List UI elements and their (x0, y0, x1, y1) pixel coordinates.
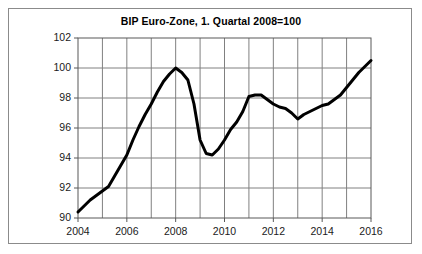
y-axis-tick-label: 90 (35, 211, 71, 223)
x-axis-tick-label: 2006 (104, 225, 150, 237)
y-axis-tick-label: 94 (35, 151, 71, 163)
axis-tick-marks (74, 38, 371, 222)
y-axis-tick-label: 98 (35, 91, 71, 103)
x-axis-tick-label: 2012 (250, 225, 296, 237)
x-axis-tick-label: 2010 (202, 225, 248, 237)
y-axis-tick-label: 92 (35, 181, 71, 193)
x-axis-tick-label: 2016 (348, 225, 394, 237)
y-axis-tick-label: 102 (35, 31, 71, 43)
x-axis-tick-label: 2008 (153, 225, 199, 237)
x-axis-tick-label: 2014 (299, 225, 345, 237)
chart-figure: BIP Euro-Zone, 1. Quartal 2008=100 90929… (0, 0, 422, 254)
x-axis-tick-label: 2004 (55, 225, 101, 237)
y-axis-tick-label: 96 (35, 121, 71, 133)
y-axis-tick-label: 100 (35, 61, 71, 73)
